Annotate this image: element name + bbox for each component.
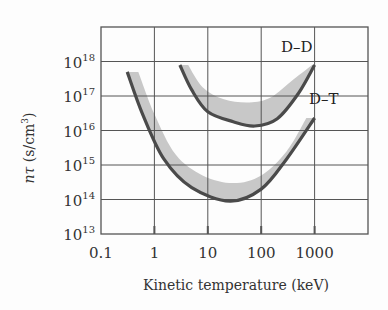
grid [101, 27, 368, 234]
x-axis-label: Kinetic temperature (keV) [143, 277, 329, 293]
y-axis-label-symbol: nτ [21, 166, 37, 183]
y-tick-label: 1013 [63, 224, 95, 244]
y-axis-label-unit: (s/cm [21, 124, 37, 167]
x-tick-labels: 0.11101001000 [89, 244, 334, 262]
bands-layer [127, 65, 314, 201]
chart: 101310141015101610171018 0.11101001000 D… [0, 0, 388, 310]
x-tick-label: 0.1 [89, 244, 113, 262]
y-axis-label: nτ (s/cm3) [20, 113, 37, 184]
y-axis-label-close: ) [21, 113, 37, 118]
y-tick-label: 1017 [63, 86, 95, 106]
y-tick-labels: 101310141015101610171018 [63, 52, 95, 245]
label-d-d: D–D [281, 38, 313, 56]
y-tick-label: 1016 [63, 121, 95, 141]
y-tick-label: 1018 [63, 52, 95, 72]
x-tick-label: 1000 [296, 244, 334, 262]
x-tick-label: 1 [150, 244, 160, 262]
y-tick-label: 1014 [63, 190, 95, 210]
x-tick-label: 100 [247, 244, 276, 262]
x-tick-label: 10 [198, 244, 217, 262]
label-d-t: D–T [309, 90, 339, 108]
y-tick-label: 1015 [63, 155, 95, 175]
